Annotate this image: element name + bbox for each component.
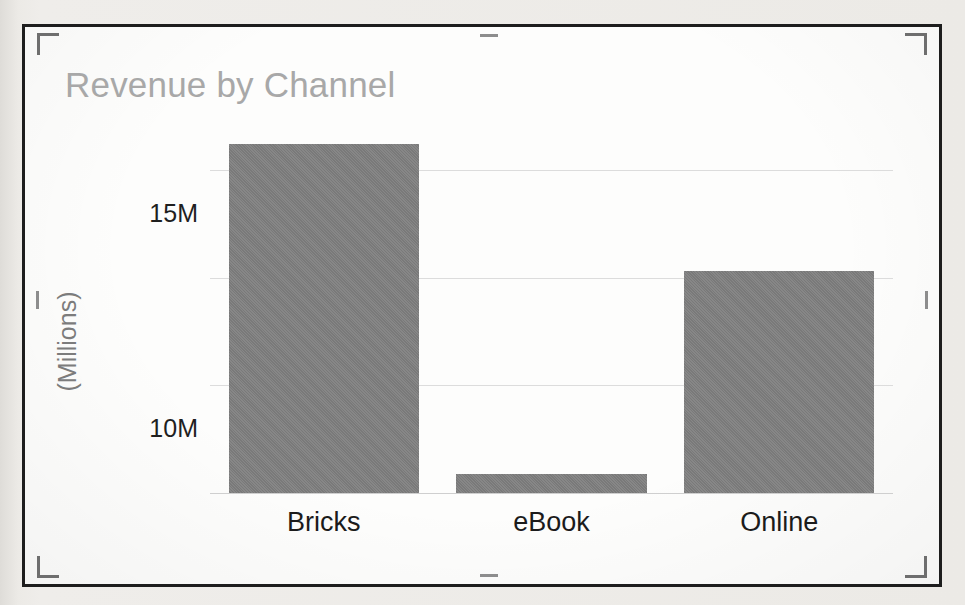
y-axis-tick-label: 10M	[149, 414, 198, 443]
crop-mark-bottom-left-icon	[37, 556, 59, 578]
chart-title: Revenue by Channel	[65, 65, 396, 105]
crop-mark-top-left-icon	[37, 33, 59, 55]
bar-chart: Revenue by Channel (Millions) 0M5M10M15M…	[25, 27, 939, 584]
axis-baseline: 0M	[210, 493, 893, 494]
edge-tick-right-icon	[925, 291, 928, 309]
edge-tick-top-icon	[480, 34, 498, 37]
y-axis-title: (Millions)	[53, 262, 82, 422]
scanned-page: Revenue by Channel (Millions) 0M5M10M15M…	[0, 0, 965, 605]
x-axis-tick-label-bricks: Bricks	[287, 507, 361, 538]
x-axis-tick-label-online: Online	[740, 507, 818, 538]
bar-ebook[interactable]	[456, 474, 646, 493]
edge-tick-left-icon	[36, 291, 39, 309]
x-axis-tick-label-ebook: eBook	[513, 507, 590, 538]
crop-mark-top-right-icon	[905, 33, 927, 55]
figure-frame: Revenue by Channel (Millions) 0M5M10M15M…	[22, 24, 942, 587]
plot-area: 0M5M10M15MBrickseBookOnline	[175, 127, 893, 493]
y-axis-tick-label: 15M	[149, 199, 198, 228]
edge-tick-bottom-icon	[480, 574, 498, 577]
bar-bricks[interactable]	[229, 144, 419, 493]
bar-online[interactable]	[684, 271, 874, 493]
crop-mark-bottom-right-icon	[905, 556, 927, 578]
